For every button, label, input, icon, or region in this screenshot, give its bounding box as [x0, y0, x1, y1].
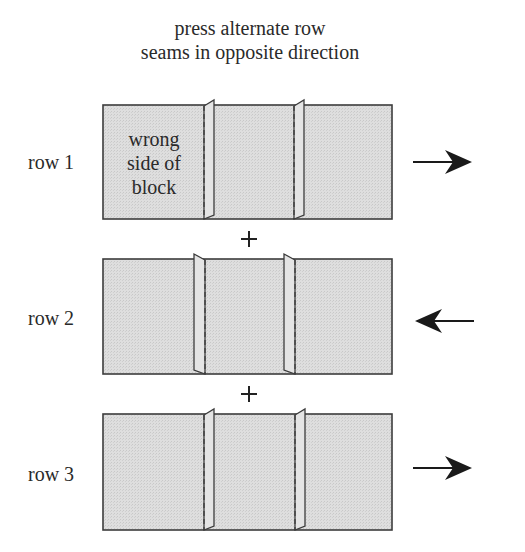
row-3-seam-1 — [204, 409, 214, 530]
row-3-seam-2 — [295, 409, 305, 530]
block-note-line-3: block — [104, 175, 204, 199]
pressing-diagram — [0, 0, 525, 552]
arrow-right-icon — [413, 456, 472, 480]
block-note: wrong side of block — [104, 127, 204, 199]
block-note-line-1: wrong — [104, 127, 204, 151]
row-2-seam-2 — [284, 254, 295, 374]
row-1-seam-2 — [294, 100, 304, 219]
row-2-block — [103, 254, 392, 374]
row-3-block — [103, 409, 392, 530]
block-note-line-2: side of — [104, 151, 204, 175]
arrow-left-icon — [415, 309, 474, 333]
row-2-seam-1 — [194, 254, 205, 374]
arrow-right-icon — [413, 150, 472, 174]
plus-icon — [241, 386, 257, 402]
row-1-seam-1 — [204, 100, 214, 219]
plus-icon — [241, 231, 257, 247]
